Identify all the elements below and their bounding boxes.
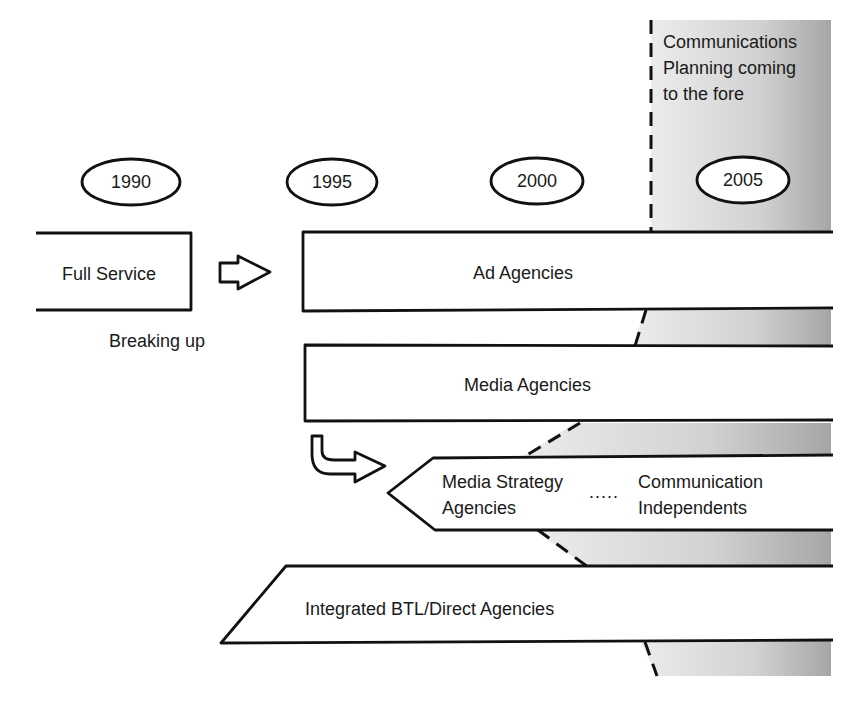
dotted-connector: ..... (589, 480, 619, 504)
integrated-agencies-label: Integrated BTL/Direct Agencies (305, 597, 554, 621)
hollow-right-arrow (220, 256, 270, 289)
media-strategy-label-line2: Agencies (442, 496, 516, 520)
full-service-label: Full Service (62, 262, 156, 286)
media-agencies-label: Media Agencies (464, 373, 591, 397)
year-2005: 2005 (723, 170, 763, 191)
comm-independents-label-line2: Independents (638, 496, 747, 520)
annotation-line-1: Communications (663, 30, 797, 54)
year-1995: 1995 (312, 172, 352, 193)
annotation-line-2: Planning coming (663, 56, 796, 80)
year-2000: 2000 (517, 171, 557, 192)
breaking-up-caption: Breaking up (109, 329, 205, 353)
annotation-line-3: to the fore (663, 82, 744, 106)
curved-hollow-arrow (312, 436, 385, 482)
media-strategy-label-line1: Media Strategy (442, 470, 563, 494)
comm-independents-label-line1: Communication (638, 470, 763, 494)
year-1990: 1990 (111, 172, 151, 193)
ad-agencies-label: Ad Agencies (473, 261, 573, 285)
